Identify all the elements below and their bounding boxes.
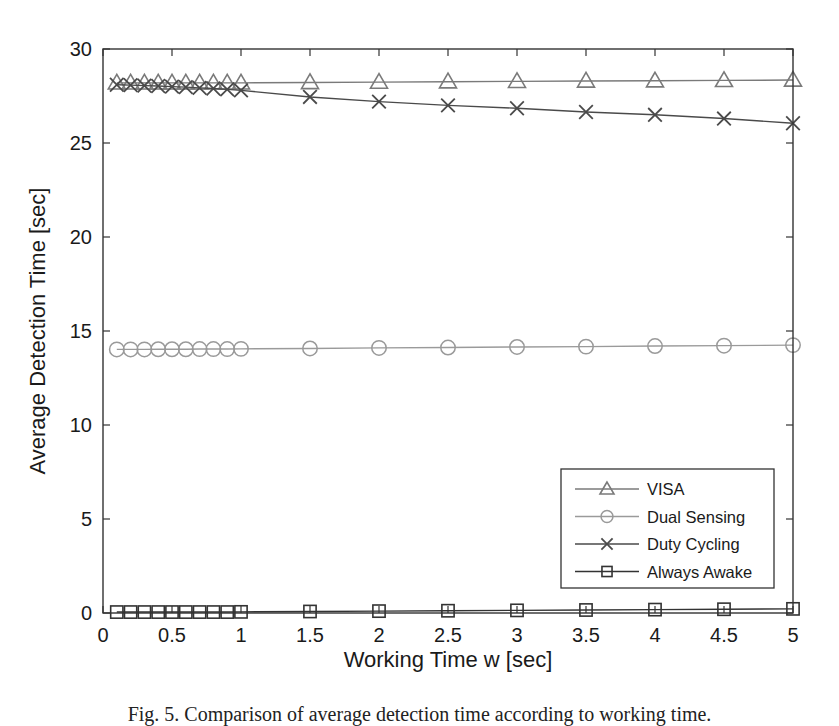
x-tick-label: 5 [787,624,798,646]
triangle-marker [578,72,595,87]
triangle-marker [371,74,388,89]
triangle-marker [716,72,733,87]
triangle-marker [302,74,319,89]
y-tick-label: 25 [70,132,92,154]
legend-label: VISA [647,480,685,498]
x-tick-label: 3 [511,624,522,646]
y-tick-label: 30 [70,38,92,60]
series-always-awake [111,603,799,618]
triangle-marker [647,72,664,87]
triangle-marker [509,73,526,88]
legend-label: Dual Sensing [647,508,745,526]
legend-label: Always Awake [647,563,752,581]
x-tick-label: 2.5 [434,624,462,646]
x-tick-label: 0.5 [158,624,186,646]
series-line [117,85,793,124]
series-dual-sensing [110,338,801,357]
y-axis-label: Average Detection Time [sec] [25,188,50,475]
y-tick-label: 0 [81,602,92,624]
legend: VISADual SensingDuty CyclingAlways Awake [561,469,774,588]
legend-label: Duty Cycling [647,535,740,553]
triangle-marker [440,73,457,88]
x-tick-label: 2 [373,624,384,646]
x-tick-label: 4.5 [710,624,738,646]
y-tick-label: 15 [70,320,92,342]
x-tick-label: 4 [649,624,660,646]
x-tick-label: 3.5 [572,624,600,646]
figure-caption: Fig. 5. Comparison of average detection … [0,703,839,726]
y-tick-label: 5 [81,508,92,530]
x-tick-label: 1 [235,624,246,646]
x-tick-label: 0 [97,624,108,646]
y-tick-label: 10 [70,414,92,436]
x-tick-label: 1.5 [296,624,324,646]
x-axis-label: Working Time w [sec] [344,647,553,672]
y-tick-label: 20 [70,226,92,248]
